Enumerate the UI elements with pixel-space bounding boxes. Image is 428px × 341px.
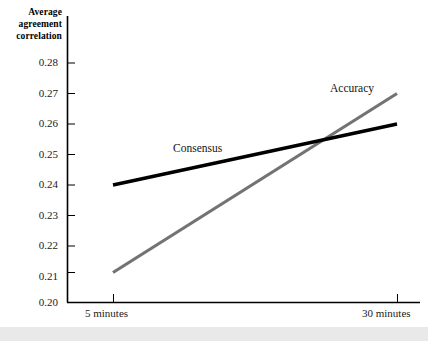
plot-area (0, 0, 428, 341)
bottom-band (0, 327, 428, 341)
x-tick-label-5-minutes: 5 minutes (85, 307, 128, 319)
series-line-consensus (113, 124, 397, 185)
series-label-consensus: Consensus (173, 142, 222, 154)
series-label-accuracy: Accuracy (330, 82, 374, 94)
chart-figure: Average agreement correlation 0.28 0.27 … (0, 0, 428, 341)
series-line-accuracy (113, 94, 397, 273)
x-tick-label-30-minutes: 30 minutes (362, 307, 411, 319)
